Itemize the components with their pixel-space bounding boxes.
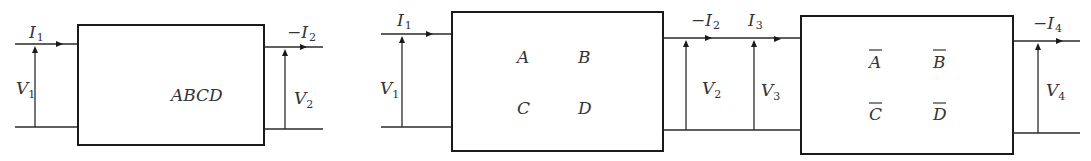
param-b-bar: B — [932, 52, 946, 72]
param-c: C — [517, 98, 530, 118]
param-c-bar: C — [869, 104, 882, 124]
label-v1: V1 — [16, 78, 35, 101]
current-arrow-icon — [1056, 38, 1063, 44]
block-label: ABCD — [169, 85, 223, 105]
label-v2: V2 — [294, 88, 313, 111]
param-d-bar: D — [932, 104, 947, 124]
label-i3: I3 — [747, 10, 763, 32]
label-v4: V4 — [1046, 80, 1065, 103]
current-arrow-icon — [56, 41, 63, 47]
param-b: B — [577, 47, 591, 67]
param-a-bar: A — [867, 52, 881, 72]
voltage-arrow-icon — [751, 40, 757, 47]
voltage-arrow-icon — [399, 36, 405, 43]
label-minus-i2: −I2 — [287, 22, 316, 44]
label-v2: V2 — [702, 78, 721, 101]
current-arrow-icon — [426, 31, 433, 37]
single-two-port: ABCD I1 V1 −I2 V2 — [15, 22, 323, 145]
two-port-network-diagrams: ABCD I1 V1 −I2 V2 A B C D — [0, 0, 1091, 161]
label-v1: V1 — [380, 78, 399, 101]
block-1 — [452, 12, 663, 151]
voltage-arrow-icon — [1035, 43, 1041, 50]
voltage-arrow-icon — [282, 49, 288, 56]
current-arrow-icon — [705, 35, 712, 41]
label-i1: I1 — [28, 22, 44, 44]
label-minus-i2: −I2 — [691, 10, 720, 32]
current-arrow-icon — [300, 44, 307, 50]
label-v3: V3 — [761, 80, 780, 103]
cascaded-two-ports: A B C D A B C D I1 V1 — [380, 10, 1080, 154]
param-d: D — [577, 98, 592, 118]
param-a: A — [515, 47, 529, 67]
label-minus-i4: −I4 — [1033, 13, 1062, 35]
voltage-arrow-icon — [32, 46, 38, 53]
block-2 — [801, 16, 1013, 154]
current-arrow-icon — [774, 36, 781, 42]
label-i1: I1 — [396, 10, 412, 32]
voltage-arrow-icon — [683, 40, 689, 47]
